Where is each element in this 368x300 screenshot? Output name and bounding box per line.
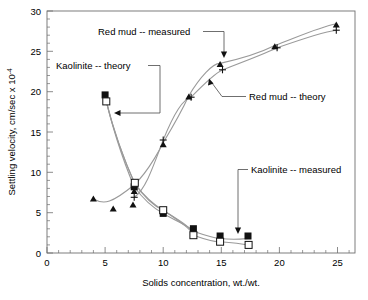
annotation-kaolinite-measured-label: Kaolinite -- measured [251, 164, 341, 175]
y-axis-title: Settling velocity, cm/sec x 10-4 [6, 68, 18, 195]
annotation-red-mud-theory-label: Red mud -- theory [249, 91, 326, 102]
annotation-red-mud-measured: Red mud -- measured [98, 26, 227, 58]
markers-kaolinite-measured [102, 91, 252, 239]
annotation-red-mud-measured-arrow [221, 52, 227, 59]
x-tick-label-0: 0 [44, 257, 49, 268]
annotation-kaolinite-measured-leader [238, 170, 248, 229]
settling-velocity-chart: 0 5 10 15 20 25 Solids concentration, wt… [0, 0, 368, 300]
svg-text:Settling velocity, cm/sec x 10: Settling velocity, cm/sec x 10-4 [6, 68, 18, 195]
x-tick-label-5: 5 [102, 257, 107, 268]
y-tick-label-5: 5 [36, 207, 41, 218]
y-tick-label-25: 25 [30, 46, 41, 57]
curve-kaolinite-theory [106, 101, 193, 235]
x-tick-label-20: 20 [274, 257, 285, 268]
plot-frame [47, 11, 355, 253]
annotation-kaolinite-measured: Kaolinite -- measured [235, 164, 341, 234]
y-tick-label-0: 0 [36, 248, 41, 259]
x-tick-label-10: 10 [158, 257, 169, 268]
y-axis-title-exponent: -4 [6, 68, 13, 74]
y-tick-label-15: 15 [30, 127, 41, 138]
annotation-kaolinite-theory-leader [120, 66, 160, 114]
y-axis-major-ticks [47, 11, 53, 253]
x-tick-label-15: 15 [216, 257, 227, 268]
y-tick-label-10: 10 [30, 167, 41, 178]
annotation-kaolinite-theory-arrow [114, 110, 121, 116]
annotation-red-mud-measured-leader [203, 32, 224, 53]
annotation-kaolinite-measured-arrow [235, 228, 241, 235]
y-tick-label-20: 20 [30, 86, 41, 97]
markers-red-mud-measured [90, 22, 340, 212]
x-tick-label-25: 25 [332, 257, 343, 268]
annotation-kaolinite-theory-label: Kaolinite -- theory [56, 60, 131, 71]
markers-kaolinite-theory [103, 98, 252, 249]
annotation-red-mud-measured-label: Red mud -- measured [98, 26, 190, 37]
x-axis-title: Solids concentration, wt./wt. [142, 277, 260, 288]
curve-kaolinite-theory-2 [106, 101, 248, 245]
annotation-red-mud-theory-leader [212, 83, 246, 97]
annotation-red-mud-theory: Red mud -- theory [208, 79, 326, 103]
y-axis-title-main: Settling velocity, cm/sec x 10 [6, 74, 17, 195]
curve-kaolinite-measured [105, 95, 248, 239]
x-axis-major-ticks [47, 247, 338, 253]
y-tick-label-30: 30 [30, 6, 41, 17]
